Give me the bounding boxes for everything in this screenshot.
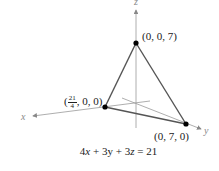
x-axis-label: x — [21, 112, 25, 122]
triangle-edge-xy — [105, 107, 186, 124]
z-axis-label: z — [134, 0, 138, 7]
eq-part: = 21 — [134, 145, 157, 157]
point-z-intercept — [133, 40, 138, 45]
triangle-edge-zx — [105, 43, 136, 107]
label-y-intercept: (0, 7, 0) — [154, 131, 189, 142]
y-axis-label: y — [204, 126, 208, 136]
eq-part: + 3y + 3 — [90, 145, 130, 157]
plane-equation: 4x + 3y + 3z = 21 — [0, 145, 219, 157]
label-x-intercept: (214, 0, 0) — [64, 95, 102, 110]
label-x-suffix: , 0, 0) — [77, 95, 103, 107]
label-z-intercept: (0, 0, 7) — [142, 31, 177, 42]
triangle-edge-zy — [136, 43, 186, 124]
fraction-21-over-4: 214 — [68, 95, 77, 110]
point-x-intercept — [102, 104, 107, 109]
point-y-intercept — [183, 121, 188, 126]
fraction-denominator: 4 — [68, 103, 77, 110]
